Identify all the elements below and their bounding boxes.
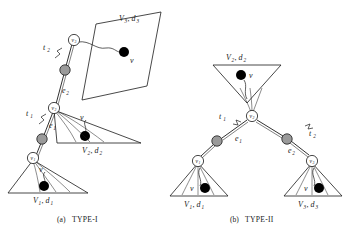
edge-label-t1-sub: 1: [223, 116, 226, 122]
panel-b-caption: (b) TYPE-II: [230, 215, 274, 224]
panel-b-caption-label: TYPE-II: [245, 215, 274, 224]
node-right-mid: [282, 134, 292, 144]
node-mid-upper: [60, 65, 70, 75]
region-v2-d-sub: 2: [243, 57, 246, 63]
edge-label-e1-sub: 1: [239, 138, 242, 144]
region-v3-d-sub: 3: [315, 204, 318, 210]
node-v2-sub: 2: [55, 108, 57, 112]
node-v1-sub: 1: [34, 158, 36, 162]
region-v1-vertex-dot: [39, 181, 49, 191]
region-v2-comma: ,: [235, 53, 237, 62]
region-v2-d-sub: 2: [99, 150, 102, 156]
node-v3-sub: 3: [75, 40, 77, 44]
figure-container: v V 3 , d 3 t 2 e 2: [0, 0, 347, 242]
panel-a-caption: (a) TYPE-I: [57, 215, 98, 224]
region-v3-vertex-dot: [119, 47, 129, 57]
edge-label-t2-sub: 2: [47, 47, 50, 53]
region-v2-vertex-label: v: [80, 113, 84, 122]
edge-label-t1-sub: 1: [30, 113, 33, 119]
region-v3-comma: ,: [307, 200, 309, 209]
region-v3-vertex-label: v: [130, 56, 134, 65]
region-v2-comma: ,: [91, 146, 93, 155]
node-v3-sub: 3: [313, 161, 315, 165]
node-mid-lower: [37, 134, 47, 144]
region-v2-vertex-dot: [236, 70, 246, 80]
region-v3-d-sub: 3: [136, 18, 139, 24]
edge-label-e2-sub: 2: [66, 90, 69, 96]
region-v2-vertex-dot: [80, 131, 90, 141]
edge-label-e2-sub: 2: [292, 150, 295, 156]
node-left-mid: [212, 136, 222, 146]
region-v2-vertex-label: v: [249, 71, 253, 80]
region-v1-d-sub: 1: [50, 200, 53, 206]
region-v1-vertex-label: v: [190, 184, 194, 193]
region-v1-d-sub: 1: [201, 204, 204, 210]
panel-a-caption-label: TYPE-I: [72, 215, 98, 224]
edge-label-t2-sub: 2: [313, 133, 316, 139]
node-v2-sub: 2: [253, 116, 255, 120]
region-v3-vertex-label: v: [304, 184, 308, 193]
figure-svg: v V 3 , d 3 t 2 e 2: [0, 0, 347, 242]
panel-a-caption-prefix: (a): [57, 215, 66, 224]
region-v1-comma: ,: [42, 196, 44, 205]
panel-b-caption-prefix: (b): [230, 215, 239, 224]
node-v1-sub: 1: [199, 161, 201, 165]
region-v3-comma: ,: [128, 14, 130, 23]
region-v1-comma: ,: [193, 200, 195, 209]
